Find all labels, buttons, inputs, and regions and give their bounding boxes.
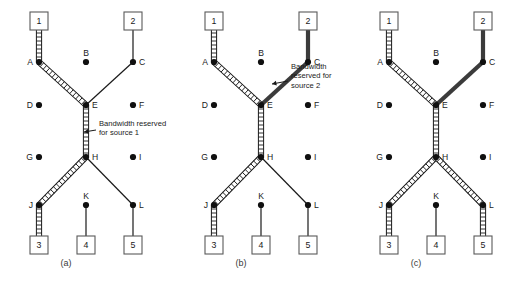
host-label-5: 5 (306, 240, 311, 250)
router-node-B (258, 59, 264, 65)
router-label-K: K (258, 191, 264, 201)
reserved-source1-link-H-L (434, 155, 485, 207)
annotation-source2-line1: Bandwidth (291, 62, 332, 71)
annotation-source2-line3: source 2 (291, 81, 332, 90)
router-label-B: B (83, 48, 89, 58)
router-node-B (83, 59, 89, 65)
router-label-F: F (489, 100, 494, 110)
router-label-E: E (442, 100, 448, 110)
router-label-H: H (442, 152, 448, 162)
router-node-J (386, 202, 392, 208)
host-label-4: 4 (434, 240, 439, 250)
router-node-A (211, 59, 217, 65)
router-label-A: A (202, 57, 208, 67)
router-label-K: K (433, 191, 439, 201)
panel-caption-b: (b) (221, 258, 261, 268)
router-node-A (386, 59, 392, 65)
router-label-K: K (83, 191, 89, 201)
router-label-B: B (433, 48, 439, 58)
router-node-G (36, 154, 42, 160)
router-label-A: A (27, 57, 33, 67)
router-node-J (211, 202, 217, 208)
router-node-H (258, 154, 264, 160)
host-label-2: 2 (131, 16, 136, 26)
router-label-F: F (139, 100, 144, 110)
annotation-arrow-head (272, 81, 277, 86)
figure-svg: ABCDEFGHIJKL12345ABCDEFGHIJKL12345ABCDEF… (0, 0, 510, 282)
host-label-4: 4 (84, 240, 89, 250)
router-node-I (480, 154, 486, 160)
link-H-L (86, 157, 133, 205)
router-label-I: I (139, 152, 141, 162)
router-node-D (386, 102, 392, 108)
host-label-5: 5 (481, 240, 486, 250)
router-node-K (83, 202, 89, 208)
host-label-1: 1 (387, 16, 392, 26)
router-node-F (305, 102, 311, 108)
host-label-3: 3 (212, 240, 217, 250)
router-label-J: J (379, 200, 383, 210)
network-bandwidth-reservation-figure: ABCDEFGHIJKL12345ABCDEFGHIJKL12345ABCDEF… (0, 0, 510, 282)
router-label-C: C (139, 57, 145, 67)
router-label-L: L (489, 200, 494, 210)
annotation-source2-line2: reserved for (291, 71, 332, 80)
annotation-source1-line2: for source 1 (99, 128, 166, 137)
reserved-source1-link-H-J (37, 155, 88, 207)
panel-b: ABCDEFGHIJKL12345 (201, 12, 320, 254)
router-label-J: J (29, 200, 33, 210)
router-label-J: J (204, 200, 208, 210)
host-label-3: 3 (387, 240, 392, 250)
router-label-H: H (267, 152, 273, 162)
router-label-D: D (202, 100, 208, 110)
router-node-K (258, 202, 264, 208)
reserved-source2-link-C-E (436, 62, 483, 105)
link-H-L (261, 157, 308, 205)
router-node-C (480, 59, 486, 65)
annotation-source1-line1: Bandwidth reserved (99, 119, 166, 128)
router-node-F (130, 102, 136, 108)
annotation-source1: Bandwidth reserved for source 1 (99, 119, 166, 138)
router-node-G (386, 154, 392, 160)
router-node-H (83, 154, 89, 160)
router-node-B (433, 59, 439, 65)
router-label-B: B (258, 48, 264, 58)
router-label-G: G (26, 152, 33, 162)
router-label-G: G (376, 152, 383, 162)
host-label-3: 3 (37, 240, 42, 250)
router-node-J (36, 202, 42, 208)
router-label-F: F (314, 100, 319, 110)
router-label-A: A (377, 57, 383, 67)
router-label-D: D (377, 100, 383, 110)
router-label-E: E (267, 100, 273, 110)
router-node-G (211, 154, 217, 160)
router-node-E (433, 102, 439, 108)
router-node-I (305, 154, 311, 160)
router-label-L: L (139, 200, 144, 210)
router-label-I: I (314, 152, 316, 162)
host-label-2: 2 (481, 16, 486, 26)
router-label-L: L (314, 200, 319, 210)
router-node-L (305, 202, 311, 208)
host-label-1: 1 (37, 16, 42, 26)
router-label-G: G (201, 152, 208, 162)
router-node-K (433, 202, 439, 208)
router-label-D: D (27, 100, 33, 110)
panel-caption-c: (c) (396, 258, 436, 268)
router-node-F (480, 102, 486, 108)
link-C-E (86, 62, 133, 105)
router-node-C (130, 59, 136, 65)
host-label-1: 1 (212, 16, 217, 26)
router-node-I (130, 154, 136, 160)
router-node-L (130, 202, 136, 208)
router-node-E (258, 102, 264, 108)
router-node-H (433, 154, 439, 160)
reserved-source1-link-E-H (433, 105, 438, 157)
panel-caption-a: (a) (46, 258, 86, 268)
router-label-H: H (92, 152, 98, 162)
router-label-C: C (489, 57, 495, 67)
router-node-L (480, 202, 486, 208)
router-node-E (83, 102, 89, 108)
host-label-2: 2 (306, 16, 311, 26)
reserved-source1-link-E-H (258, 105, 263, 157)
host-label-4: 4 (259, 240, 264, 250)
